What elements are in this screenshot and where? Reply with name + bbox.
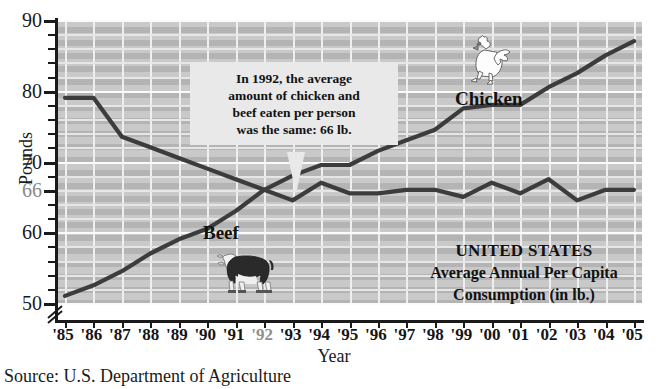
- cow-icon: [208, 248, 278, 296]
- y-axis-tick: [44, 91, 57, 94]
- chart-figure: 506066708090 Pounds '85'86'87'88'89'90'9…: [0, 0, 668, 389]
- y-axis-tick: [44, 232, 57, 235]
- y-axis-tick: [44, 162, 57, 165]
- y-axis-tick: [48, 289, 57, 291]
- y-axis-tick: [48, 34, 57, 36]
- y-axis-tick: [48, 147, 57, 149]
- callout-line-1: In 1992, the average: [196, 70, 392, 87]
- callout-line-4: was the same: 66 lb.: [196, 121, 392, 138]
- y-axis-tick: [48, 261, 57, 263]
- y-axis-tick-label: 50: [8, 293, 42, 313]
- y-axis-tick-label: 90: [8, 10, 42, 30]
- y-axis-tick: [44, 190, 57, 193]
- y-axis-tick: [48, 105, 57, 107]
- y-axis-tick: [48, 48, 57, 50]
- y-axis-tick-label: 80: [8, 81, 42, 101]
- title-line-1: UNITED STATES: [410, 240, 638, 262]
- y-axis-title: Pounds: [16, 119, 37, 199]
- y-axis-tick: [44, 20, 57, 23]
- x-axis-tick-label: '05: [615, 325, 649, 345]
- y-axis-tick-label: 60: [8, 222, 42, 242]
- callout-line-2: amount of chicken and: [196, 87, 392, 104]
- y-axis-tick: [48, 119, 57, 121]
- y-axis-tick: [48, 204, 57, 206]
- rooster-icon: [465, 33, 513, 85]
- callout-line-3: beef eaten per person: [196, 104, 392, 121]
- y-axis-tick: [48, 62, 57, 64]
- beef-series-label: Beef: [203, 222, 239, 244]
- callout-pointer: [287, 152, 305, 194]
- y-axis-tick: [48, 77, 57, 79]
- x-axis-tick-labels: '85'86'87'88'89'90'91'92'93'94'95'96'97'…: [55, 325, 644, 347]
- crossover-callout: In 1992, the average amount of chicken a…: [190, 62, 398, 145]
- y-axis-tick: [48, 246, 57, 248]
- y-axis-tick: [48, 133, 57, 135]
- chart-title-block: UNITED STATES Average Annual Per Capita …: [410, 240, 638, 306]
- title-line-3: Consumption (in lb.): [410, 284, 638, 306]
- title-line-2: Average Annual Per Capita: [410, 262, 638, 284]
- y-axis-tick: [48, 218, 57, 220]
- source-note: Source: U.S. Department of Agriculture: [4, 366, 291, 387]
- x-axis-title: Year: [0, 346, 668, 367]
- y-axis-tick: [48, 176, 57, 178]
- chicken-series-label: Chicken: [455, 88, 523, 110]
- y-axis-tick: [48, 275, 57, 277]
